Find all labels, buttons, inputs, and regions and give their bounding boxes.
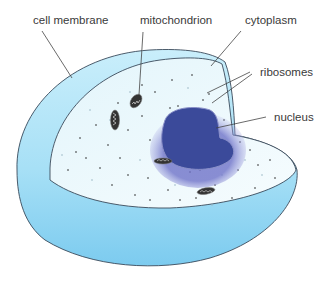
label-cell-membrane: cell membrane [33, 14, 108, 26]
leader-cell-membrane [42, 31, 72, 78]
label-cytoplasm: cytoplasm [245, 14, 297, 26]
leader-cytoplasm [211, 31, 241, 66]
cell-diagram: cell membrane mitochondrion cytoplasm ri… [0, 0, 329, 282]
mitochondrion-icon [154, 158, 172, 164]
mitochondrion-icon [111, 110, 120, 130]
label-ribosomes: ribosomes [260, 66, 313, 78]
label-nucleus: nucleus [274, 111, 314, 123]
label-mitochondrion: mitochondrion [140, 14, 212, 26]
